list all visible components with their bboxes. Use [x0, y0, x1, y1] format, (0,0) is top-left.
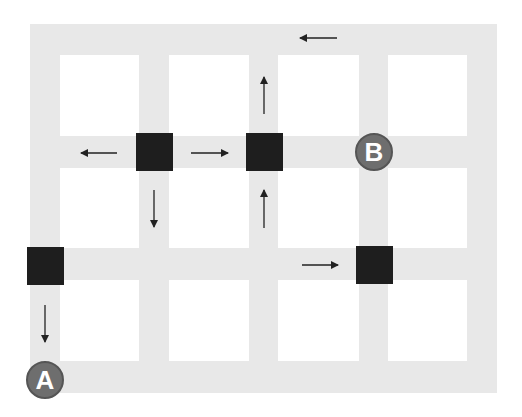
direction-arrows — [0, 0, 522, 417]
street-grid-diagram: BA — [0, 0, 522, 417]
location-marker-b: B — [355, 133, 393, 171]
location-marker-a: A — [26, 361, 64, 399]
